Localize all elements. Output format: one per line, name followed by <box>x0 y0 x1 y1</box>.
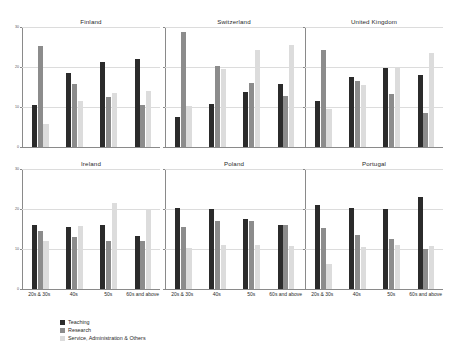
panel-united-kingdom: United Kingdom <box>305 18 443 148</box>
bar <box>361 85 366 147</box>
bar-groups <box>166 27 303 147</box>
legend-item[interactable]: Service, Administration & Others <box>60 334 146 342</box>
bar <box>112 203 117 289</box>
x-axis-line <box>22 147 160 148</box>
bar-group <box>209 169 226 289</box>
y-axis-tick <box>163 67 166 68</box>
bar-group <box>243 27 260 147</box>
bar <box>43 241 48 289</box>
bar <box>289 246 294 289</box>
y-axis-tick <box>20 27 23 28</box>
y-axis-tick <box>20 107 23 108</box>
bar <box>395 67 400 147</box>
bar <box>429 246 434 289</box>
plot-area: 0102030 <box>22 169 160 290</box>
bar-group <box>135 27 152 147</box>
bar-group <box>32 169 49 289</box>
y-axis-tick <box>20 147 23 148</box>
bar-group <box>418 27 435 147</box>
bar <box>106 241 111 289</box>
y-axis-tick <box>163 27 166 28</box>
bar <box>326 109 331 147</box>
y-axis-tick <box>163 147 166 148</box>
x-axis-line <box>305 289 443 290</box>
x-axis-tick-label: 20s & 30s <box>165 291 200 297</box>
bar-group <box>175 169 192 289</box>
y-axis-tick <box>303 169 306 170</box>
bar <box>221 245 226 289</box>
bar-group <box>349 27 366 147</box>
plot-area <box>165 169 303 290</box>
bar <box>283 225 288 289</box>
bar <box>389 239 394 289</box>
panel-portugal: Portugal <box>305 160 443 290</box>
bar <box>361 247 366 289</box>
legend-item[interactable]: Teaching <box>60 318 146 326</box>
x-axis-tick-label: 20s & 30s <box>22 291 57 297</box>
y-axis-tick <box>163 249 166 250</box>
bar <box>72 237 77 289</box>
bar <box>146 91 151 147</box>
bar <box>315 205 320 289</box>
bar-group <box>243 169 260 289</box>
bar <box>289 45 294 147</box>
small-multiples-bar-chart-figure: Finland0102030SwitzerlandUnited KingdomI… <box>0 0 454 355</box>
bar <box>255 50 260 147</box>
panel-title: Poland <box>165 160 303 168</box>
bar <box>38 46 43 147</box>
bar-groups <box>306 27 443 147</box>
x-axis-labels: 20s & 30s40s50s60s and above <box>165 291 303 297</box>
bar-group <box>278 169 295 289</box>
panel-title: Ireland <box>22 160 160 168</box>
bar-group <box>66 27 83 147</box>
bar-group <box>315 27 332 147</box>
y-axis-tick <box>20 289 23 290</box>
bar <box>255 245 260 289</box>
x-axis-tick-label: 40s <box>57 291 92 297</box>
bar <box>32 105 37 147</box>
y-axis-tick <box>163 209 166 210</box>
y-axis-tick <box>303 27 306 28</box>
bar-group <box>315 169 332 289</box>
bar-groups <box>23 169 160 289</box>
bar <box>423 249 428 289</box>
y-axis-tick-label: 20 <box>15 207 19 211</box>
bar-groups <box>23 27 160 147</box>
bar <box>140 105 145 147</box>
bar <box>243 219 248 289</box>
bar <box>66 227 71 289</box>
bar <box>135 59 140 147</box>
bar-group <box>135 169 152 289</box>
bar-group <box>32 27 49 147</box>
panel-ireland: Ireland0102030 <box>22 160 160 290</box>
y-axis-tick-label: 30 <box>15 167 19 171</box>
x-axis-tick-label: 40s <box>340 291 375 297</box>
legend-item[interactable]: Research <box>60 326 146 334</box>
bar <box>326 264 331 289</box>
bar <box>249 221 254 289</box>
x-axis-line <box>165 147 303 148</box>
bar-group <box>100 169 117 289</box>
y-axis-tick <box>303 147 306 148</box>
x-axis-tick-label: 50s <box>91 291 126 297</box>
y-axis-tick-label: 20 <box>15 65 19 69</box>
y-axis-tick <box>303 249 306 250</box>
bar <box>175 208 180 289</box>
y-axis-tick <box>303 67 306 68</box>
x-axis-labels: 20s & 30s40s50s60s and above <box>22 291 160 297</box>
x-axis-line <box>165 289 303 290</box>
bar <box>423 113 428 147</box>
x-axis-tick-label: 20s & 30s <box>305 291 340 297</box>
x-axis-labels: 20s & 30s40s50s60s and above <box>305 291 443 297</box>
bar <box>100 225 105 289</box>
bar <box>146 209 151 289</box>
y-axis-tick-label: 30 <box>15 25 19 29</box>
plot-area <box>305 27 443 148</box>
panel-switzerland: Switzerland <box>165 18 303 148</box>
bar <box>112 93 117 147</box>
bar-group <box>349 169 366 289</box>
bar <box>355 81 360 147</box>
bar <box>418 197 423 289</box>
bar <box>209 104 214 147</box>
x-axis-tick-label: 50s <box>374 291 409 297</box>
